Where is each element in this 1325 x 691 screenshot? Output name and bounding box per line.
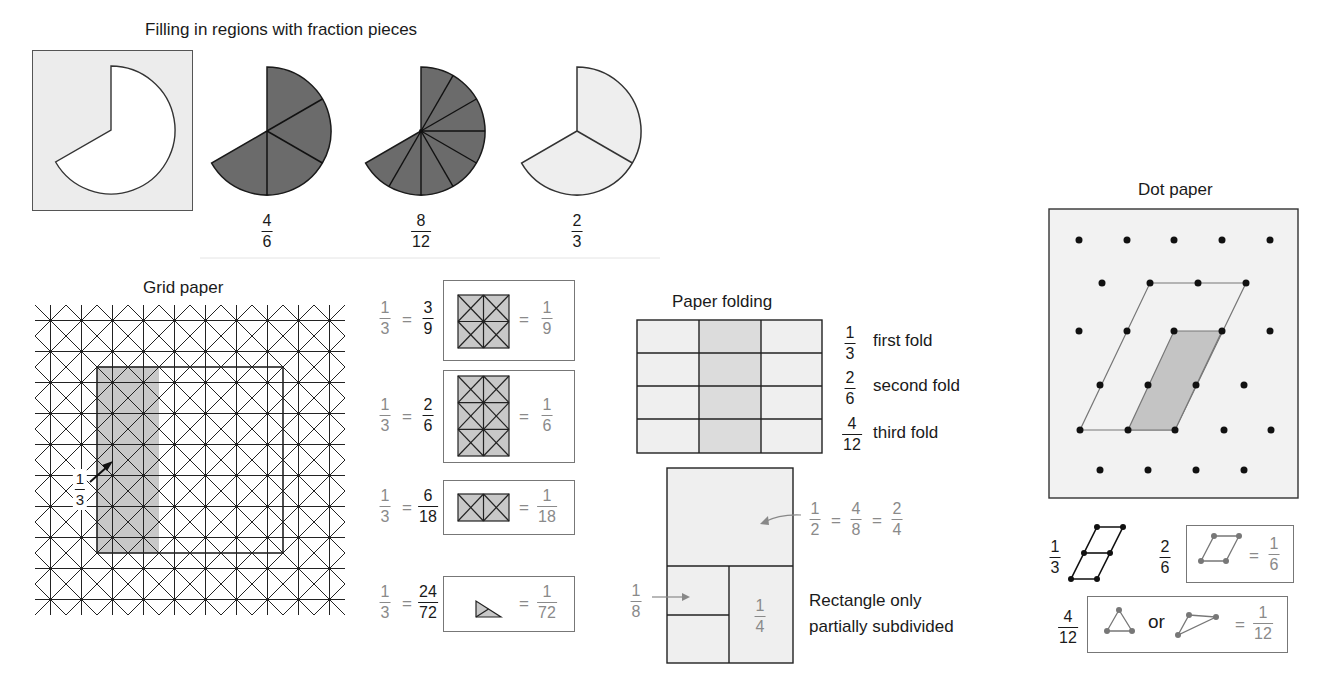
third-shape [1071,527,1123,579]
dot-paper-figure [0,0,1325,691]
dot-third-frac: 13 [1050,538,1061,577]
dot-twelfth-equals: = [1235,615,1245,635]
dot-twelfth-frac: 412 [1058,608,1078,647]
dot-sixth-frac: 26 [1160,538,1171,577]
dot-sixth-result: 16 [1269,535,1280,574]
dot-twelfth-or: or [1148,611,1165,633]
dot-sixth-equals: = [1249,546,1259,566]
dot-twelfth-result: 112 [1253,604,1273,643]
